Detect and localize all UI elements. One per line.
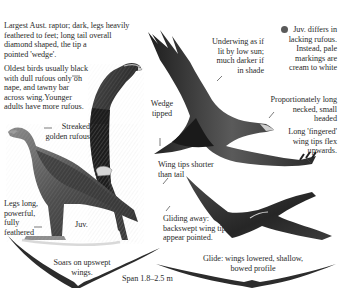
- soars-upswept-label: Soars on upswept wings.: [42, 258, 122, 277]
- fingered-wingtips-label: Long 'fingered' wing tips flex upwards.: [270, 127, 337, 156]
- wing-tips-shorter-label: Wing tips shorter than tail: [158, 160, 214, 179]
- long-necked-label: Proportionately long necked, small heade…: [252, 95, 337, 124]
- legs-feathered-label: Legs long, powerful, fully feathered: [4, 199, 38, 237]
- wingspan-label: Span 1.8–2.5 m: [122, 274, 173, 284]
- gliding-away-label: Gliding away: backswept wing tips appear…: [163, 214, 229, 243]
- intro-label: Largest Aust. raptor; dark, legs heavily…: [4, 21, 129, 59]
- streaked-rufous-label: Streaked golden rufous: [36, 122, 90, 141]
- glide-profile-label: Glide: wings lowered, shallow, bowed pro…: [196, 254, 310, 273]
- underwing-label: Underwing as if lit by low sun; much dar…: [206, 37, 264, 75]
- wedge-tipped-label: Wedge tipped: [146, 99, 178, 118]
- juvenile-label: Juv.: [75, 220, 88, 230]
- juv-differs-label: Juv. differs in lacking rufous. Instead,…: [272, 25, 337, 73]
- oldest-birds-label: Oldest birds usually black with dull ruf…: [4, 64, 88, 112]
